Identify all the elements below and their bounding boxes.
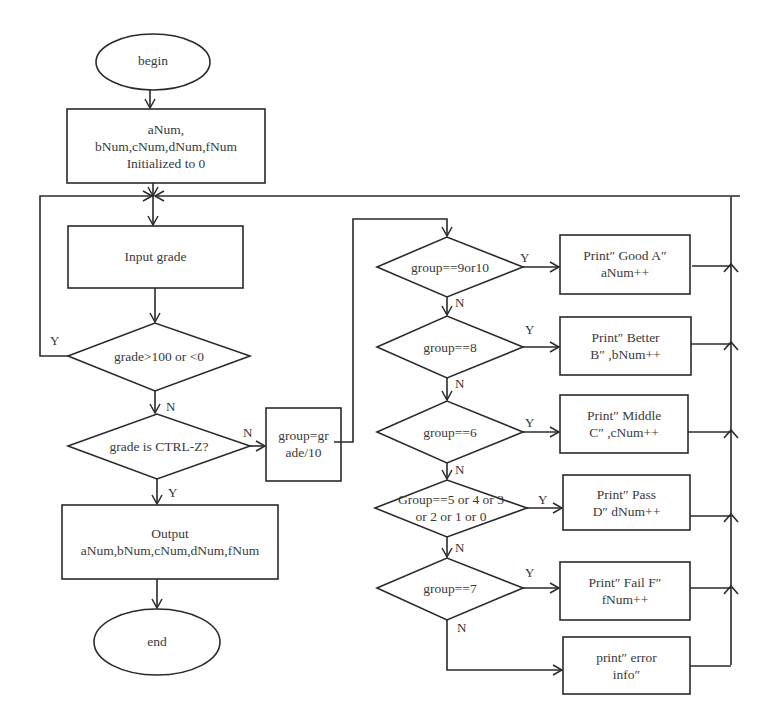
c-no-label: N bbox=[455, 462, 464, 478]
print-error-label: print″ error info″ bbox=[563, 649, 690, 683]
f-no-label: N bbox=[457, 620, 466, 636]
group-label: group=gr ade/10 bbox=[266, 427, 341, 461]
input-label: Input grade bbox=[68, 248, 243, 265]
output-line-2: aNum,bNum,cNum,dNum,fNum bbox=[81, 542, 259, 559]
f-yes-label: Y bbox=[525, 565, 534, 581]
print-a-label: Print″ Good A″ aNum++ bbox=[560, 247, 690, 281]
decision-a-label: group==9or10 bbox=[377, 259, 523, 276]
group-line-1: group=gr bbox=[278, 427, 328, 444]
decision-d-label: Group==5 or 4 or 3 or 2 or 1 or 0 bbox=[375, 491, 527, 525]
range-label: grade>100 or <0 bbox=[68, 348, 250, 365]
decision-c-label: group==6 bbox=[377, 424, 523, 441]
decision-d-line-2: or 2 or 1 or 0 bbox=[416, 508, 487, 525]
a-yes-label: Y bbox=[520, 250, 529, 266]
print-d-line-1: Print″ Pass bbox=[597, 486, 656, 503]
decision-b-label: group==8 bbox=[377, 339, 523, 356]
c-yes-label: Y bbox=[525, 415, 534, 431]
print-b-label: Print″ Better B″ ,bNum++ bbox=[560, 329, 691, 363]
output-label: Output aNum,bNum,cNum,dNum,fNum bbox=[62, 525, 278, 559]
print-f-line-2: fNum++ bbox=[602, 591, 649, 608]
print-b-line-2: B″ ,bNum++ bbox=[590, 346, 660, 363]
print-b-line-1: Print″ Better bbox=[591, 329, 659, 346]
eof-yes-label: Y bbox=[168, 485, 177, 501]
print-error-line-1: print″ error bbox=[596, 649, 657, 666]
a-no-label: N bbox=[455, 295, 464, 311]
output-line-1: Output bbox=[151, 525, 189, 542]
eof-no-label: N bbox=[243, 425, 252, 441]
print-a-line-2: aNum++ bbox=[601, 264, 649, 281]
d-no-label: N bbox=[455, 540, 464, 556]
print-f-line-1: Print″ Fail F″ bbox=[589, 574, 662, 591]
range-yes-label: Y bbox=[50, 333, 59, 349]
init-label: aNum, bNum,cNum,dNum,fNum Initialized to… bbox=[67, 121, 265, 172]
print-c-label: Print″ Middle C″ ,cNum++ bbox=[560, 407, 688, 441]
init-line-2: bNum,cNum,dNum,fNum bbox=[95, 138, 237, 155]
d-yes-label: Y bbox=[538, 492, 547, 508]
group-line-2: ade/10 bbox=[286, 444, 322, 461]
b-no-label: N bbox=[455, 376, 464, 392]
print-error-line-2: info″ bbox=[613, 666, 640, 683]
decision-d-line-1: Group==5 or 4 or 3 bbox=[398, 491, 504, 508]
b-yes-label: Y bbox=[525, 322, 534, 338]
print-d-label: Print″ Pass D″ dNum++ bbox=[563, 486, 690, 520]
begin-label: begin bbox=[96, 52, 210, 69]
print-a-line-1: Print″ Good A″ bbox=[583, 247, 666, 264]
eof-label: grade is CTRL-Z? bbox=[68, 438, 250, 455]
print-c-line-2: C″ ,cNum++ bbox=[589, 424, 659, 441]
print-c-line-1: Print″ Middle bbox=[587, 407, 661, 424]
decision-f-label: group==7 bbox=[377, 580, 523, 597]
init-line-1: aNum, bbox=[148, 121, 184, 138]
init-line-3: Initialized to 0 bbox=[127, 155, 206, 172]
print-d-line-2: D″ dNum++ bbox=[593, 503, 661, 520]
print-f-label: Print″ Fail F″ fNum++ bbox=[560, 574, 690, 608]
range-no-label: N bbox=[166, 399, 175, 415]
end-label: end bbox=[94, 633, 220, 650]
